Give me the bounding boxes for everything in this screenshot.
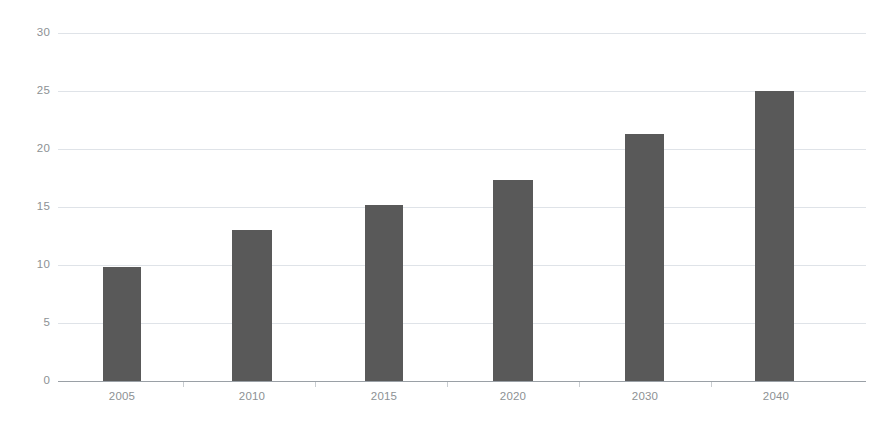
x-tick-mark-3 [447,382,448,387]
bars-layer [58,20,866,395]
x-tick-label-2010: 2010 [239,390,265,402]
bar-2040[interactable] [755,91,794,381]
x-tick-label-2015: 2015 [371,390,397,402]
x-tick-mark-4 [579,382,580,387]
y-tick-label-10: 10 [16,259,50,271]
x-tick-label-2030: 2030 [632,390,658,402]
x-tick-mark-5 [711,382,712,387]
bar-2030[interactable] [625,134,664,381]
y-tick-label-25: 25 [16,85,50,97]
bar-chart: 30 25 20 15 10 5 0 2005 2010 [0,0,883,432]
bar-2020[interactable] [493,180,533,381]
y-axis: 30 25 20 15 10 5 0 [8,0,50,432]
x-tick-label-2040: 2040 [763,390,789,402]
y-tick-label-30: 30 [16,27,50,39]
x-tick-label-2005: 2005 [109,390,135,402]
plot-area [58,20,866,395]
x-tick-label-2020: 2020 [500,390,526,402]
x-tick-mark-2 [315,382,316,387]
bar-2015[interactable] [365,205,403,381]
y-tick-label-5: 5 [16,317,50,329]
x-tick-mark-1 [183,382,184,387]
y-tick-label-0: 0 [16,375,50,387]
y-tick-label-15: 15 [16,201,50,213]
bar-2010[interactable] [232,230,272,381]
bar-2005[interactable] [103,267,141,381]
y-tick-label-20: 20 [16,143,50,155]
